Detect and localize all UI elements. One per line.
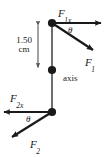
theta-bottom-label: θ <box>26 115 30 124</box>
top-point-dot <box>48 19 56 27</box>
force1-label: F1 <box>85 53 95 72</box>
force1-vector-arrow <box>52 23 93 50</box>
force2-label: F2 <box>30 135 40 154</box>
force2x-subscript: 2x <box>16 101 23 110</box>
dimension-unit: cm <box>11 45 37 54</box>
axis-pivot-dot <box>48 66 56 74</box>
theta-top-label: θ <box>68 26 72 35</box>
force1-subscript: 1 <box>91 65 95 74</box>
force2-subscript: 2 <box>36 147 40 156</box>
force1x-label: F1x <box>58 4 72 23</box>
force1x-subscript: 1x <box>64 16 71 25</box>
diagram-canvas <box>0 0 108 157</box>
force2x-label: F2x <box>10 89 24 108</box>
force-diagram-figure: F1x θ F1 1.50 cm axis F2x θ F2 <box>0 0 108 157</box>
dimension-label: 1.50 cm <box>11 36 37 55</box>
force2-vector-arrow <box>12 112 52 137</box>
axis-label: axis <box>63 74 78 83</box>
bottom-point-dot <box>48 108 56 116</box>
